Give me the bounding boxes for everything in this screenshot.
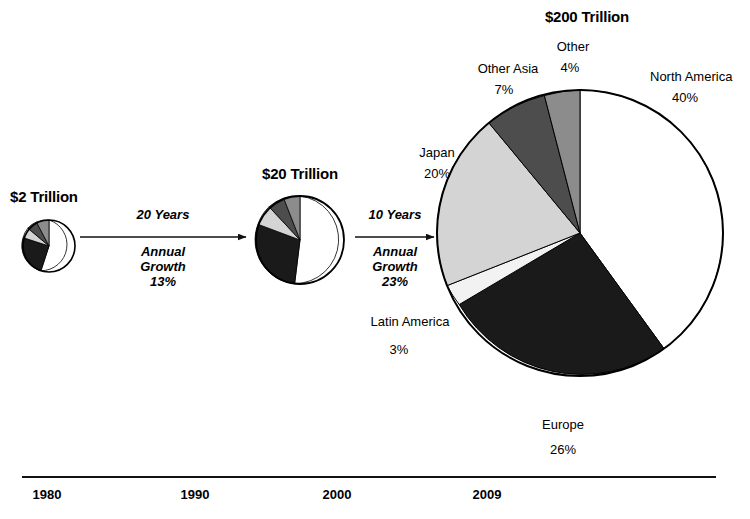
connector-1-years: 20 Years (137, 207, 190, 223)
connector-1-growth-line2: Growth (140, 259, 186, 275)
pie2-slice-north-america (295, 196, 339, 284)
pie3-slice-europe (459, 233, 664, 374)
pie3-slice-north-america (580, 90, 723, 349)
pie1-slice-north-america (41, 220, 67, 271)
pie1-slice-japan (23, 228, 49, 246)
pie3-label-other-asia-pct: 7% (495, 81, 514, 98)
pie3-title: $200 Trillion (545, 8, 629, 25)
pie1-slice-other-asia (28, 222, 49, 246)
pie-chart-2000 (255, 196, 344, 284)
axis-year-2000: 2000 (323, 487, 352, 502)
pie1-title: $2 Trillion (10, 188, 78, 205)
pie3-slice-latin-america (447, 233, 580, 305)
pie1-slice-europe (22, 238, 49, 271)
pie3-label-japan-name: Japan (419, 144, 454, 161)
pie3-label-north-america-name: North America (650, 68, 732, 85)
pie2-outline (256, 196, 344, 284)
pie2-slice-other (284, 196, 300, 240)
pie3-outline (437, 90, 723, 376)
chart-canvas: $2 Trillion $20 Trillion $200 Trillion 2… (0, 0, 750, 519)
connector-1-growth-line3: 13% (150, 274, 176, 290)
pie2-slice-other-asia (269, 198, 300, 240)
pie-chart-1980 (22, 220, 75, 272)
pie-chart-2009 (437, 90, 723, 376)
connector-1-growth-line1: Annual (141, 244, 185, 260)
connector-2-years: 10 Years (369, 207, 422, 223)
axis-year-1980: 1980 (33, 487, 62, 502)
pie3-label-north-america-pct: 40% (672, 89, 698, 106)
pie2-slice-japan (258, 207, 300, 240)
pie3-slice-japan (437, 123, 580, 286)
connector-2-growth-line1: Annual (373, 244, 417, 260)
pie3-label-europe-name: Europe (542, 416, 584, 433)
axis-year-1990: 1990 (181, 487, 210, 502)
connector-2-growth-line3: 23% (382, 274, 408, 290)
pie3-label-japan-pct: 20% (424, 165, 450, 182)
pie3-slice-other (544, 90, 580, 233)
pie3-label-latin-america-name: Latin America (371, 313, 450, 330)
pie3-label-latin-america-pct: 3% (390, 341, 409, 358)
pie1-outline (23, 220, 75, 272)
axis-year-2009: 2009 (473, 487, 502, 502)
pie3-label-other-pct: 4% (561, 59, 580, 76)
pie2-slice-europe (255, 224, 300, 283)
connector-2-growth-line2: Growth (372, 259, 418, 275)
pie2-title: $20 Trillion (262, 165, 338, 182)
pie3-slice-other-asia (489, 96, 580, 233)
pie3-label-europe-pct: 26% (550, 441, 576, 458)
pie3-label-other-name: Other (557, 38, 590, 55)
pie1-slice-other (36, 220, 49, 246)
pie3-label-other-asia-name: Other Asia (478, 60, 539, 77)
